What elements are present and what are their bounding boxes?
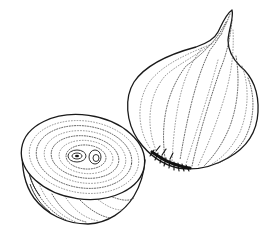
- whole-onion: [128, 10, 258, 171]
- onion-drawing: [0, 0, 273, 236]
- onion-illustration: [0, 0, 273, 236]
- whole-onion-outline: [128, 10, 258, 169]
